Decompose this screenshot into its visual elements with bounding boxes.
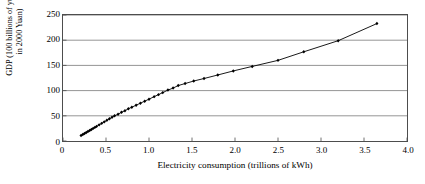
data-point	[375, 22, 378, 25]
x-tick-label: 4.0	[393, 146, 423, 155]
data-point	[232, 69, 235, 72]
data-point	[113, 114, 116, 117]
x-tick-label: 2.0	[220, 146, 250, 155]
y-tick-label: 250	[38, 10, 60, 19]
data-point	[127, 107, 130, 110]
data-point	[161, 91, 164, 94]
data-point	[123, 109, 126, 112]
x-tick-label: 3.0	[307, 146, 337, 155]
data-point	[157, 93, 160, 96]
plot-svg	[63, 15, 407, 141]
x-tick-label: 2.5	[263, 146, 293, 155]
data-point	[177, 84, 180, 87]
data-point	[153, 95, 156, 98]
data-point	[135, 103, 138, 106]
data-point	[105, 119, 108, 122]
x-tick-label: 0	[47, 146, 77, 155]
data-point	[202, 77, 205, 80]
x-axis-tick-labels: 00.51.01.52.02.53.03.54.0	[0, 146, 425, 158]
x-tick-label: 3.5	[350, 146, 380, 155]
x-tick-label: 1.5	[177, 146, 207, 155]
data-point	[98, 123, 101, 126]
data-point	[172, 86, 175, 89]
y-tick-label: 150	[38, 61, 60, 70]
data-point	[139, 101, 142, 104]
data-point	[337, 39, 340, 42]
data-point	[143, 99, 146, 102]
data-point	[166, 88, 169, 91]
x-axis-label: Electricity consumption (trillions of kW…	[62, 160, 408, 171]
data-point	[192, 79, 195, 82]
plot-area	[62, 14, 408, 142]
data-point	[130, 106, 133, 109]
data-point	[184, 82, 187, 85]
y-axis-label-line-1: GDP (100 billions of yuan,	[5, 0, 15, 92]
chart-figure: GDP (100 billions of yuan, in 2000 Yuan)…	[0, 0, 425, 184]
y-tick-label: 200	[38, 35, 60, 44]
x-tick-label: 0.5	[90, 146, 120, 155]
x-tick-label: 1.0	[134, 146, 164, 155]
series-markers	[80, 22, 379, 137]
y-axis-label-line-2: in 2000 Yuan)	[14, 0, 24, 92]
data-point	[103, 120, 106, 123]
data-point	[302, 50, 305, 53]
y-tick-label: 100	[38, 86, 60, 95]
y-axis-label: GDP (100 billions of yuan, in 2000 Yuan)	[5, 0, 24, 92]
data-point	[120, 111, 123, 114]
data-point	[216, 73, 219, 76]
data-point	[147, 97, 150, 100]
y-tick-label: 50	[38, 112, 60, 121]
data-point	[276, 59, 279, 62]
data-point	[108, 117, 111, 120]
data-point	[100, 122, 103, 125]
